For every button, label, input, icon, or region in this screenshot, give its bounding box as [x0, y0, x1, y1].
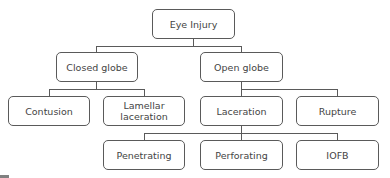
node-label: Penetrating [117, 150, 172, 161]
node-label: Contusion [25, 106, 73, 117]
node-label: IOFB [326, 150, 348, 161]
node-eye-injury: Eye Injury [152, 9, 235, 39]
node-label: Laceration [216, 106, 266, 117]
node-laceration: Laceration [200, 96, 283, 126]
corner-mark [0, 175, 9, 178]
eye-injury-classification-diagram: Eye Injury Closed globe Open globe Contu… [0, 0, 390, 178]
node-lamellar-laceration: Lamellar laceration [103, 96, 185, 126]
node-label: Lamellar laceration [117, 100, 171, 122]
node-label: Open globe [214, 62, 269, 73]
node-open-globe: Open globe [200, 52, 283, 82]
node-rupture: Rupture [296, 96, 379, 126]
node-label: Closed globe [66, 62, 127, 73]
node-label: Perforating [215, 150, 267, 161]
node-perforating: Perforating [200, 140, 283, 170]
node-iofb: IOFB [296, 140, 379, 170]
node-closed-globe: Closed globe [56, 52, 138, 82]
node-label: Eye Injury [170, 19, 218, 30]
node-contusion: Contusion [8, 96, 90, 126]
node-penetrating: Penetrating [103, 140, 185, 170]
node-label: Rupture [319, 106, 357, 117]
